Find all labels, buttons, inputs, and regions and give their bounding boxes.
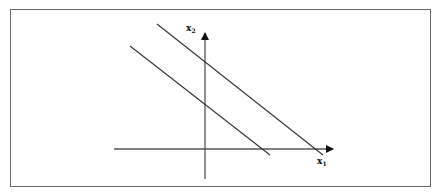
diagram-canvas: x2 x1 bbox=[0, 0, 441, 195]
x-axis-label: x1 bbox=[317, 156, 327, 167]
outer-line bbox=[157, 24, 323, 155]
inner-line bbox=[130, 46, 270, 155]
y-axis-label: x2 bbox=[186, 23, 196, 34]
